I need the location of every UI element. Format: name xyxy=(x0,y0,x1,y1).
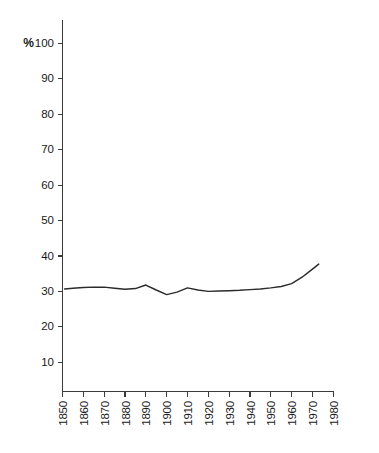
x-tick-label: 1870 xyxy=(99,401,111,426)
y-tick-label: 60 xyxy=(41,179,54,191)
y-tick-label: 40 xyxy=(41,250,54,262)
x-tick-label: 1920 xyxy=(203,401,215,426)
x-tick-label: 1880 xyxy=(120,401,132,426)
x-tick-label: 1930 xyxy=(224,401,236,426)
x-tick-label: 1940 xyxy=(245,401,257,426)
y-tick-label: 30 xyxy=(41,285,54,297)
x-tick-label: 1910 xyxy=(182,401,194,426)
y-tick-label: 80 xyxy=(41,108,54,120)
line-chart-plot: % 100 90 80 70 60 50 40 30 20 10 1850 18… xyxy=(0,0,379,453)
y-tick-label: 20 xyxy=(41,320,54,332)
x-tick-label: 1960 xyxy=(286,401,298,426)
y-tick-label: 50 xyxy=(41,214,54,226)
y-axis-unit-label: % xyxy=(23,36,34,50)
x-tick-label: 1890 xyxy=(140,401,152,426)
x-tick-label: 1860 xyxy=(78,401,90,426)
x-tick-label: 1850 xyxy=(57,401,69,426)
chart-background xyxy=(0,0,379,453)
y-tick-label: 70 xyxy=(41,143,54,155)
y-tick-label: 100 xyxy=(35,37,54,49)
x-tick-label: 1980 xyxy=(328,401,340,426)
y-tick-label: 10 xyxy=(41,356,54,368)
y-tick-label: 90 xyxy=(41,72,54,84)
x-tick-label: 1950 xyxy=(265,401,277,426)
x-tick-label: 1900 xyxy=(161,401,173,426)
chart-figure: % 100 90 80 70 60 50 40 30 20 10 1850 18… xyxy=(0,0,379,453)
x-tick-label: 1970 xyxy=(307,401,319,426)
